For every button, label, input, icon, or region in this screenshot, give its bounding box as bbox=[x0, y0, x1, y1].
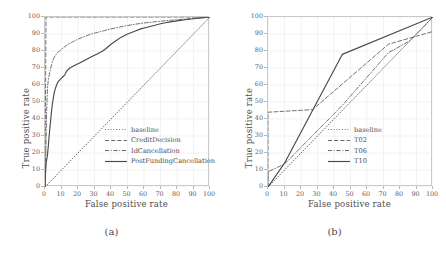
y-tickmark bbox=[264, 186, 267, 187]
x-tickmark bbox=[399, 186, 400, 189]
x-tickmark bbox=[176, 186, 177, 189]
x-tickmark bbox=[94, 186, 95, 189]
x-tickmark bbox=[193, 186, 194, 189]
x-tick-label: 100 bbox=[426, 190, 438, 198]
legend-label: T02 bbox=[354, 136, 367, 144]
legend-item-PostFundingCancellation: PostFundingCancellation bbox=[105, 157, 215, 165]
x-tickmark bbox=[143, 186, 144, 189]
x-tick-label: 30 bbox=[89, 190, 97, 198]
y-tick-label: 60 bbox=[22, 80, 40, 88]
x-tick-label: 70 bbox=[155, 190, 163, 198]
y-tick-label: 70 bbox=[22, 63, 40, 71]
x-tickmark bbox=[267, 186, 268, 189]
x-tickmark bbox=[61, 186, 62, 189]
panel-b-caption: (b) bbox=[223, 226, 446, 237]
legend-item-IdCancellation: IdCancellation bbox=[105, 147, 215, 155]
x-tick-label: 60 bbox=[139, 190, 147, 198]
x-tick-label: 40 bbox=[106, 190, 114, 198]
panel-a-caption: (a) bbox=[0, 226, 223, 237]
y-tick-label: 0 bbox=[22, 182, 40, 190]
legend-item-baseline: baseline bbox=[105, 126, 215, 134]
x-tickmark bbox=[284, 186, 285, 189]
y-tick-label: 60 bbox=[245, 80, 263, 88]
x-tick-label: 0 bbox=[42, 190, 46, 198]
y-tickmark bbox=[41, 33, 44, 34]
x-tickmark bbox=[44, 186, 45, 189]
x-tickmark bbox=[350, 186, 351, 189]
x-tick-label: 20 bbox=[296, 190, 304, 198]
x-tick-label: 10 bbox=[56, 190, 64, 198]
panel-a-ylabel: True positive rate bbox=[21, 58, 31, 198]
legend-label: baseline bbox=[354, 126, 382, 134]
y-tick-label: 30 bbox=[22, 131, 40, 139]
y-tick-label: 90 bbox=[245, 29, 263, 37]
x-tickmark bbox=[160, 186, 161, 189]
y-tickmark bbox=[41, 101, 44, 102]
y-tickmark bbox=[41, 169, 44, 170]
y-tickmark bbox=[264, 50, 267, 51]
x-tickmark bbox=[317, 186, 318, 189]
legend-swatch-dashed bbox=[328, 137, 350, 144]
legend-item-T06: T06 bbox=[328, 147, 382, 155]
y-tick-label: 50 bbox=[245, 97, 263, 105]
legend-label: PostFundingCancellation bbox=[131, 157, 215, 165]
panel-a: True positive rate False positive rate (… bbox=[0, 0, 223, 256]
legend-swatch-solid bbox=[328, 158, 350, 165]
panel-b-legend: baselineT02T06T10 bbox=[328, 126, 382, 166]
y-tickmark bbox=[264, 152, 267, 153]
y-tickmark bbox=[41, 186, 44, 187]
legend-swatch-dashdot bbox=[328, 147, 350, 154]
y-tickmark bbox=[264, 67, 267, 68]
legend-item-T10: T10 bbox=[328, 157, 382, 165]
panel-b-xlabel: False positive rate bbox=[267, 199, 432, 209]
x-tickmark bbox=[110, 186, 111, 189]
y-tickmark bbox=[264, 84, 267, 85]
x-tickmark bbox=[366, 186, 367, 189]
y-tick-label: 50 bbox=[22, 97, 40, 105]
panel-a-xlabel: False positive rate bbox=[44, 199, 209, 209]
y-tick-label: 40 bbox=[22, 114, 40, 122]
y-tickmark bbox=[264, 118, 267, 119]
x-tick-label: 80 bbox=[172, 190, 180, 198]
legend-swatch-dotted bbox=[105, 126, 127, 133]
x-tick-label: 60 bbox=[362, 190, 370, 198]
legend-item-CreditDecision: CreditDecision bbox=[105, 136, 215, 144]
x-tickmark bbox=[77, 186, 78, 189]
x-tick-label: 50 bbox=[345, 190, 353, 198]
y-tick-label: 100 bbox=[22, 12, 40, 20]
y-tickmark bbox=[264, 33, 267, 34]
x-tick-label: 100 bbox=[203, 190, 215, 198]
y-tick-label: 100 bbox=[245, 12, 263, 20]
y-tickmark bbox=[41, 135, 44, 136]
legend-swatch-solid bbox=[105, 158, 127, 165]
x-tick-label: 20 bbox=[73, 190, 81, 198]
y-tickmark bbox=[264, 101, 267, 102]
x-tickmark bbox=[416, 186, 417, 189]
x-tick-label: 0 bbox=[265, 190, 269, 198]
y-tick-label: 90 bbox=[22, 29, 40, 37]
y-tickmark bbox=[264, 169, 267, 170]
y-tick-label: 20 bbox=[245, 148, 263, 156]
y-tickmark bbox=[41, 50, 44, 51]
y-tickmark bbox=[41, 16, 44, 17]
legend-swatch-dashdot bbox=[105, 147, 127, 154]
y-tick-label: 80 bbox=[245, 46, 263, 54]
legend-label: CreditDecision bbox=[131, 136, 181, 144]
x-tickmark bbox=[209, 186, 210, 189]
legend-swatch-dashed bbox=[105, 137, 127, 144]
y-tick-label: 10 bbox=[22, 165, 40, 173]
x-tickmark bbox=[127, 186, 128, 189]
x-tick-label: 90 bbox=[188, 190, 196, 198]
y-tick-label: 40 bbox=[245, 114, 263, 122]
roc-figure: True positive rate False positive rate (… bbox=[0, 0, 446, 256]
x-tick-label: 30 bbox=[312, 190, 320, 198]
panel-b-ylabel: True positive rate bbox=[244, 58, 254, 198]
legend-item-baseline: baseline bbox=[328, 126, 382, 134]
x-tickmark bbox=[383, 186, 384, 189]
y-tick-label: 20 bbox=[22, 148, 40, 156]
legend-swatch-dotted bbox=[328, 126, 350, 133]
x-tickmark bbox=[333, 186, 334, 189]
y-tick-label: 80 bbox=[22, 46, 40, 54]
y-tickmark bbox=[41, 118, 44, 119]
x-tick-label: 70 bbox=[378, 190, 386, 198]
